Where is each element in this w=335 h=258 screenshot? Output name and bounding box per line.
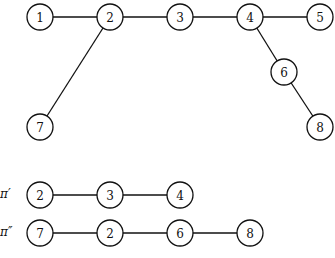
svg-text:2: 2	[106, 11, 114, 25]
svg-text:3: 3	[106, 189, 114, 203]
tree-edge-2-7	[40, 17, 110, 127]
svg-text:8: 8	[316, 121, 324, 135]
tree-diagram: 123456782347268	[0, 0, 335, 258]
path1-node-2: 2	[97, 220, 123, 246]
path1-node-6: 6	[167, 220, 193, 246]
tree-node-2: 2	[97, 4, 123, 30]
svg-text:4: 4	[246, 11, 254, 25]
svg-text:2: 2	[106, 227, 114, 241]
path0-node-4: 4	[167, 182, 193, 208]
tree-node-4: 4	[237, 4, 263, 30]
tree-node-7: 7	[27, 114, 53, 140]
tree-node-5: 5	[307, 4, 333, 30]
svg-text:6: 6	[176, 227, 184, 241]
svg-text:1: 1	[36, 11, 44, 25]
tree-node-3: 3	[167, 4, 193, 30]
path0-node-2: 2	[27, 182, 53, 208]
path-label-pi-prime: π′	[0, 187, 11, 201]
path1-node-7: 7	[27, 220, 53, 246]
tree-node-6: 6	[271, 59, 297, 85]
tree-node-8: 8	[307, 114, 333, 140]
svg-text:6: 6	[280, 66, 288, 80]
path-label-pi-double-prime: π″	[0, 225, 12, 239]
svg-text:8: 8	[246, 227, 254, 241]
path0-node-3: 3	[97, 182, 123, 208]
path1-node-8: 8	[237, 220, 263, 246]
svg-text:3: 3	[176, 11, 184, 25]
svg-text:2: 2	[36, 189, 44, 203]
svg-text:4: 4	[176, 189, 184, 203]
tree-node-1: 1	[27, 4, 53, 30]
svg-text:7: 7	[36, 121, 44, 135]
svg-text:7: 7	[36, 227, 44, 241]
svg-text:5: 5	[316, 11, 324, 25]
